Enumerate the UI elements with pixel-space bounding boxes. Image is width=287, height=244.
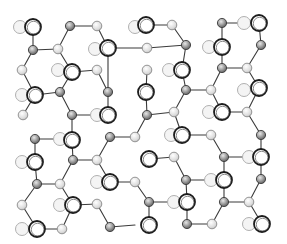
small-atom bbox=[217, 63, 226, 72]
small-atom bbox=[28, 45, 37, 54]
light-atom bbox=[244, 197, 254, 207]
background-atom bbox=[52, 64, 65, 77]
small-atom bbox=[181, 85, 190, 94]
light-atom bbox=[53, 44, 63, 54]
small-atom bbox=[103, 87, 112, 96]
light-atom bbox=[242, 63, 252, 73]
light-atom bbox=[18, 110, 28, 120]
small-atom bbox=[219, 197, 228, 206]
light-atom bbox=[92, 21, 102, 31]
light-atom bbox=[242, 107, 252, 117]
small-atom bbox=[105, 132, 114, 141]
background-atom bbox=[16, 223, 29, 236]
light-atom bbox=[142, 43, 152, 53]
light-atom bbox=[206, 85, 216, 95]
small-atom bbox=[68, 155, 77, 164]
small-atom bbox=[219, 152, 228, 161]
small-atom bbox=[256, 174, 265, 183]
light-atom bbox=[130, 132, 140, 142]
light-atom bbox=[17, 65, 27, 75]
light-atom bbox=[207, 219, 217, 229]
light-atom bbox=[167, 20, 177, 30]
small-atom bbox=[182, 219, 191, 228]
small-atom bbox=[256, 40, 265, 49]
crystal-lattice-diagram bbox=[0, 0, 287, 244]
background-atom bbox=[238, 84, 251, 97]
bond-line bbox=[147, 45, 186, 48]
light-atom bbox=[92, 65, 102, 75]
light-atom bbox=[55, 179, 65, 189]
small-atom bbox=[217, 18, 226, 27]
light-atom bbox=[142, 65, 152, 75]
light-atom bbox=[92, 155, 102, 165]
small-atom bbox=[65, 21, 74, 30]
small-atom bbox=[256, 130, 265, 139]
background-atom bbox=[238, 17, 251, 30]
light-atom bbox=[169, 152, 179, 162]
small-atom bbox=[30, 134, 39, 143]
small-atom bbox=[55, 87, 64, 96]
small-atom bbox=[181, 40, 190, 49]
light-atom bbox=[57, 224, 67, 234]
small-atom bbox=[67, 110, 76, 119]
small-atom bbox=[32, 179, 41, 188]
small-atom bbox=[142, 110, 151, 119]
light-atom bbox=[169, 107, 179, 117]
light-atom bbox=[130, 177, 140, 187]
light-atom bbox=[17, 200, 27, 210]
small-atom bbox=[105, 222, 114, 231]
small-atom bbox=[144, 197, 153, 206]
small-atom bbox=[181, 175, 190, 184]
light-atom bbox=[92, 199, 102, 209]
light-atom bbox=[206, 130, 216, 140]
